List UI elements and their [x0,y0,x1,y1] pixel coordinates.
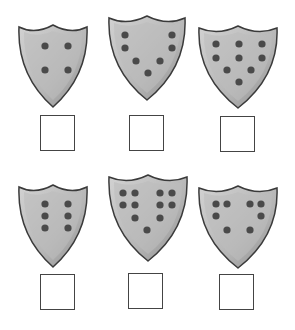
answer-box-1[interactable] [40,115,75,151]
shield-3 [197,24,279,110]
answer-box-2[interactable] [129,115,164,151]
answer-box-3[interactable] [220,116,255,152]
shield-6 [197,184,279,270]
answer-box-6[interactable] [219,274,254,310]
shield-4 [17,183,89,269]
answer-box-4[interactable] [40,274,75,310]
shield-1 [17,23,89,109]
shield-2 [107,14,187,102]
answer-box-5[interactable] [128,273,163,309]
shield-5 [107,173,189,263]
